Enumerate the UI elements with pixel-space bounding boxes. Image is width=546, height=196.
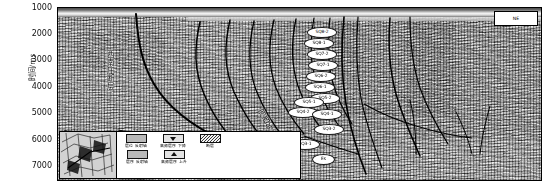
legend-item-label: 断层 — [206, 144, 214, 148]
y-tick-label: 3000 — [18, 56, 52, 64]
y-tick-label: 2000 — [18, 30, 52, 38]
inset-and-legend-box: 层位 反射轴 高频层序 下降 断层 — [59, 131, 301, 179]
y-tick-label: 1000 — [18, 4, 52, 12]
legend-item-label: 层位 反射轴 — [125, 144, 146, 148]
legend-item: 高频层序 上升 — [159, 150, 189, 164]
legend-item: 高频层序 下降 — [158, 134, 188, 148]
fault-line — [357, 17, 382, 168]
triangle-down-icon — [170, 137, 176, 141]
fault-line-major-left — [136, 14, 224, 141]
sequence-label: SQ4-1 — [312, 109, 342, 120]
y-tick-label: 6000 — [18, 136, 52, 144]
y-tick-label: 4000 — [18, 83, 52, 91]
sequence-label: SQ3-2 — [314, 124, 344, 135]
triangle-up-icon — [171, 152, 177, 156]
fault-label-left: 西南庄断层 — [104, 50, 116, 90]
y-tick-label: 7000 — [18, 162, 52, 170]
fault-line — [480, 106, 490, 154]
fault-line — [456, 112, 472, 154]
legend-row: 层序 反射轴 高频层序 上升 — [121, 150, 297, 164]
legend-row: 层位 反射轴 高频层序 下降 断层 — [121, 134, 297, 148]
sequence-label: SQ6-2 — [306, 71, 336, 82]
legend-item: 层序 反射轴 — [122, 150, 152, 164]
fault-line-antithetic — [364, 104, 472, 138]
legend-symbol-empty — [202, 150, 221, 157]
index-map-graphic — [60, 132, 116, 178]
seismic-figure: 时间/ms 1000 2000 3000 4000 5000 6000 7000 — [0, 0, 546, 196]
sequence-label: Es — [312, 154, 335, 165]
legend-symbol-triangle-down — [163, 134, 184, 143]
legend-item: 层位 反射轴 — [121, 134, 151, 148]
sequence-label: SQ8-2 — [307, 27, 337, 38]
orientation-tag: NE — [494, 11, 538, 26]
sequence-label: SQ7-2 — [307, 49, 337, 60]
sequence-label: SQ8-1 — [304, 38, 334, 49]
structural-index-map — [60, 132, 117, 178]
seismic-section-panel: 西南庄断层 河西务断层 SQ8-2 SQ8-1 SQ7-2 SQ7-1 SQ6-… — [57, 7, 542, 181]
legend: 层位 反射轴 高频层序 下降 断层 — [117, 132, 300, 178]
legend-item-label: 高频层序 下降 — [160, 144, 185, 148]
legend-symbol-filled-box — [126, 134, 147, 143]
legend-item-spacer — [196, 150, 226, 157]
legend-item-label: 高频层序 上升 — [161, 160, 186, 164]
sequence-label: SQ7-1 — [308, 60, 338, 71]
fault-line — [410, 17, 448, 144]
legend-symbol-hatched-box — [200, 134, 221, 143]
y-axis-ticks: 1000 2000 3000 4000 5000 6000 7000 — [14, 0, 52, 196]
sequence-label: SQ6-1 — [305, 82, 335, 93]
legend-symbol-triangle-up — [164, 150, 185, 159]
legend-symbol-pale-box — [127, 150, 148, 159]
y-tick-label: 5000 — [18, 109, 52, 117]
legend-item-label: 层序 反射轴 — [126, 160, 147, 164]
legend-item: 断层 — [195, 134, 225, 148]
